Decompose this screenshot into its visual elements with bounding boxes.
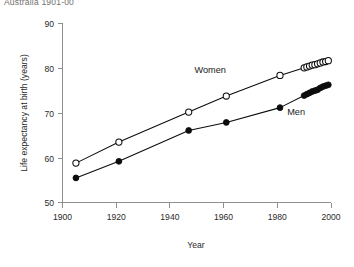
y-tick-label: 70 bbox=[44, 109, 54, 119]
y-axis-ticks bbox=[58, 24, 63, 203]
data-point-men bbox=[277, 105, 283, 111]
x-axis-tick-labels: 1900 1920 1940 1960 1980 2000 bbox=[53, 212, 341, 222]
y-axis-title: Life expectancy at birth (years) bbox=[19, 54, 29, 172]
series-men bbox=[73, 82, 331, 181]
series-annotation-women: Women bbox=[194, 65, 226, 75]
y-tick-label: 80 bbox=[44, 64, 54, 74]
line-chart: 90 80 70 60 50 1900 1920 1940 1960 1980 … bbox=[0, 0, 354, 267]
y-tick-label: 50 bbox=[44, 198, 54, 208]
series-annotation-men: Men bbox=[287, 107, 305, 117]
data-point-women bbox=[116, 139, 122, 145]
data-point-women bbox=[73, 160, 79, 166]
data-point-women bbox=[223, 93, 229, 99]
x-tick-label: 1980 bbox=[268, 212, 287, 222]
data-point-men bbox=[325, 82, 331, 88]
life-expectancy-figure: Australia 1901-00 90 80 70 60 50 bbox=[0, 0, 354, 267]
y-tick-label: 60 bbox=[44, 154, 54, 164]
x-axis-ticks bbox=[63, 203, 332, 208]
figure-caption-top: Australia 1901-00 bbox=[4, 0, 74, 7]
data-point-women bbox=[325, 58, 331, 64]
data-point-men bbox=[223, 120, 229, 126]
x-tick-label: 2000 bbox=[321, 212, 340, 222]
x-tick-label: 1920 bbox=[107, 212, 126, 222]
x-axis-title: Year bbox=[187, 240, 205, 250]
series-line-men bbox=[76, 85, 328, 178]
x-tick-label: 1960 bbox=[214, 212, 233, 222]
x-tick-label: 1900 bbox=[53, 212, 72, 222]
data-point-women bbox=[277, 72, 283, 78]
series-layer bbox=[73, 58, 332, 181]
y-tick-label: 90 bbox=[44, 19, 54, 29]
data-point-men bbox=[116, 158, 122, 164]
data-point-women bbox=[186, 109, 192, 115]
data-point-men bbox=[186, 128, 192, 134]
x-tick-label: 1940 bbox=[160, 212, 179, 222]
data-point-men bbox=[73, 175, 79, 181]
y-axis-tick-labels: 90 80 70 60 50 bbox=[44, 19, 54, 208]
